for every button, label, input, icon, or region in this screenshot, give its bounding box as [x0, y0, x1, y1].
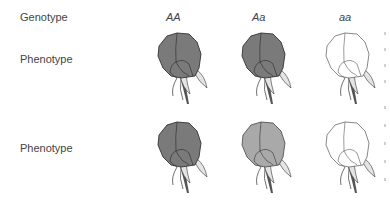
flower-icon: [237, 28, 297, 108]
clipped-text-fragment: [384, 124, 386, 127]
phenotype-label-row1: Phenotype: [20, 53, 73, 65]
flower-row2-aa: [321, 117, 381, 197]
flower-row2-AA: [153, 117, 213, 197]
clipped-text-fragment: [384, 80, 386, 83]
flower-icon: [153, 117, 213, 197]
genotype-Aa: Aa: [252, 11, 265, 23]
clipped-text-fragment: [384, 178, 386, 181]
genotype-aa: aa: [339, 11, 351, 23]
clipped-text-fragment: [384, 142, 386, 145]
clipped-text-fragment: [384, 48, 386, 51]
clipped-text-fragment: [384, 32, 386, 35]
genotype-label: Genotype: [20, 11, 68, 23]
flower-icon: [153, 28, 213, 108]
flower-icon: [237, 117, 297, 197]
genotype-AA: AA: [166, 11, 181, 23]
flower-icon: [321, 28, 381, 108]
flower-row1-AA: [153, 28, 213, 108]
clipped-text-fragment: [384, 160, 386, 163]
flower-icon: [321, 117, 381, 197]
flower-row1-aa: [321, 28, 381, 108]
flower-row2-Aa: [237, 117, 297, 197]
clipped-text-fragment: [384, 106, 386, 109]
phenotype-label-row2: Phenotype: [20, 142, 73, 154]
clipped-text-fragment: [384, 64, 386, 67]
flower-row1-Aa: [237, 28, 297, 108]
